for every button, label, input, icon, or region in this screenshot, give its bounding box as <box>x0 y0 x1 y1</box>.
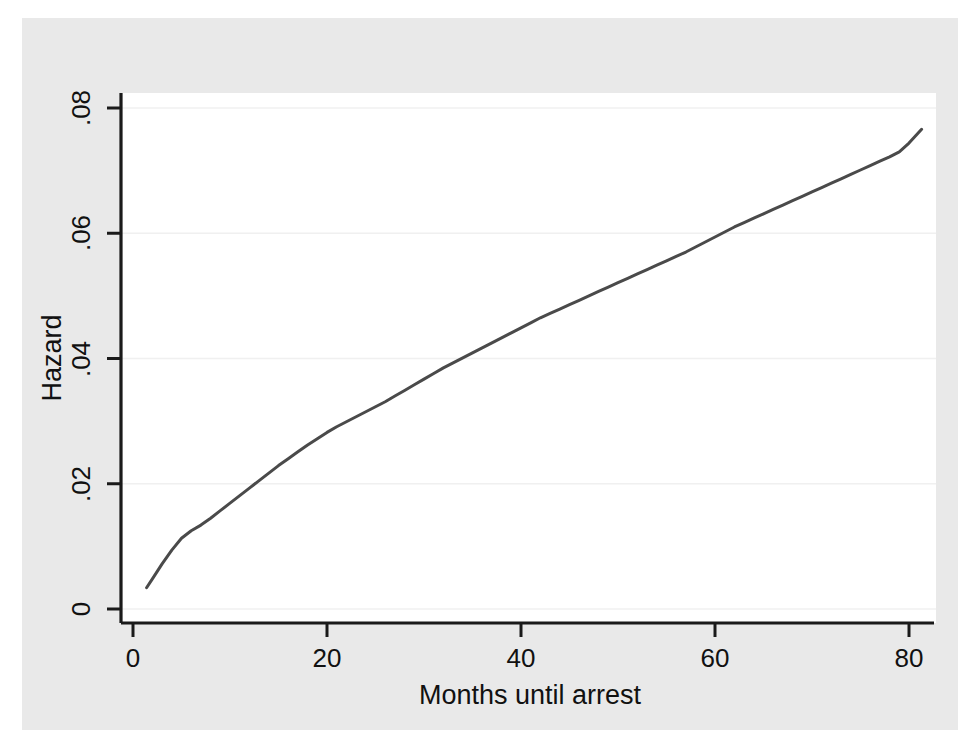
x-tick-label: 0 <box>126 643 140 674</box>
y-axis-title: Hazard <box>37 314 68 401</box>
y-tick-label: .04 <box>66 340 97 376</box>
hazard-figure: 020406080 0.02.04.06.08 Months until arr… <box>0 0 980 748</box>
y-tick-label: .06 <box>66 215 97 251</box>
plot-region <box>121 93 936 623</box>
x-axis-title: Months until arrest <box>419 680 641 711</box>
x-tick-label: 40 <box>507 643 536 674</box>
y-tick-label: .08 <box>66 90 97 126</box>
x-tick-label: 80 <box>895 643 924 674</box>
x-tick-label: 60 <box>701 643 730 674</box>
y-tick-label: .02 <box>66 466 97 502</box>
x-tick-label: 20 <box>313 643 342 674</box>
y-tick-label: 0 <box>66 602 97 616</box>
